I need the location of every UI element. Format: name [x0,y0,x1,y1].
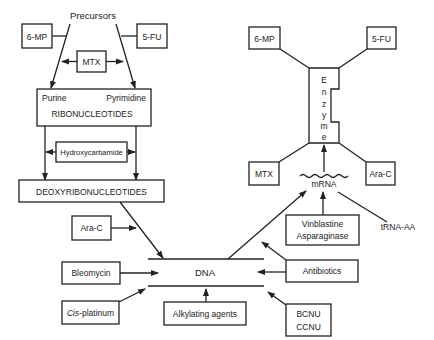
left-mtx-box: MTX [77,51,106,72]
trna-label: tRNA-AA [381,222,416,232]
svg-text:6-MP: 6-MP [27,32,48,42]
pyrimidine-label: Pyrimidine [106,93,146,103]
deoxyribonucleotides-box: DEOXYRIBONUCLEOTIDES [19,180,164,202]
bleomycin-box: Bleomycin [62,262,120,284]
svg-text:CCNU: CCNU [296,322,321,332]
purine-label: Purine [42,93,67,103]
svg-text:Ara-C: Ara-C [80,223,102,233]
svg-text:DEOXYRIBONUCLEOTIDES: DEOXYRIBONUCLEOTIDES [36,187,147,197]
svg-text:Asparaginase: Asparaginase [297,231,349,241]
svg-text:5-FU: 5-FU [372,34,391,44]
bcnu-arrow [268,292,286,305]
enzyme-letter: E [321,75,327,85]
left-5fu-box: 5-FU [137,24,167,48]
bcnu-ccnu-box: BCNU CCNU [286,304,331,336]
svg-text:BCNU: BCNU [296,309,320,319]
svg-text:6-MP: 6-MP [254,34,275,44]
right-5fu-connector [339,49,367,68]
precursor-to-pyrimidine-arrow [116,24,135,88]
alkylating-agents-box: Alkylating agents [164,302,246,325]
cis-platinum-arrow [119,289,145,302]
right-6mp-box: 6-MP [249,27,280,49]
mrna-wavy-line [300,175,348,178]
svg-text:Antibiotics: Antibiotics [303,266,342,276]
right-arac-connector [339,143,366,162]
ribonucleotides-box: Purine Pyrimidine RIBONUCLEOTIDES [37,89,151,126]
right-arac-box: Ara-C [366,162,395,185]
right-mtx-box: MTX [249,162,279,185]
precursors-label: Precursors [70,10,116,21]
svg-text:Bleomycin: Bleomycin [71,268,110,278]
svg-text:Vinblastine: Vinblastine [302,219,344,229]
cis-platinum-box: Cis-platinum [62,301,119,324]
vinblastine-asparaginase-box: Vinblastine Asparaginase [286,215,359,245]
enzyme-letter: m [320,121,327,131]
right-5fu-box: 5-FU [367,27,396,49]
left-arac-box: Ara-C [72,216,111,240]
right-6mp-connector [280,49,309,68]
svg-text:Hydroxycarbamide: Hydroxycarbamide [60,148,123,157]
hydroxycarbamide-box: Hydroxycarbamide [56,142,127,162]
svg-text:Alkylating agents: Alkylating agents [173,309,237,319]
drug-action-diagram: Precursors 6-MP 5-FU MTX Purine Pyrimidi… [0,0,434,340]
right-mtx-connector [279,143,309,162]
enzyme-letter: e [322,132,327,142]
svg-text:Ara-C: Ara-C [369,169,391,179]
antibiotics-to-transcription-arrow [262,242,286,260]
svg-text:5-FU: 5-FU [143,32,162,42]
deoxy-to-dna-arrow [120,202,163,258]
svg-text:MTX: MTX [83,57,101,67]
mrna-label: mRNA [311,179,336,189]
svg-text:MTX: MTX [255,169,273,179]
left-6mp-box: 6-MP [22,24,52,48]
dna-label: DNA [195,267,216,278]
enzyme-letter: n [322,87,327,97]
enzyme-letter: z [322,99,326,109]
precursor-to-purine-arrow [51,24,70,88]
ribonucleotides-label: RIBONUCLEOTIDES [51,109,133,119]
svg-text:Cis-platinum: Cis-platinum [67,308,114,318]
antibiotics-box: Antibiotics [286,260,358,282]
